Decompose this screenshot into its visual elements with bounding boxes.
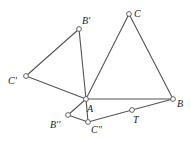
segment-Bpp-Cpp <box>68 115 88 122</box>
label-Bpp: B′′ <box>50 119 61 130</box>
point-Bp <box>77 27 82 32</box>
segment-Cpp-T <box>88 110 132 122</box>
points-group <box>24 12 176 125</box>
point-A <box>84 97 89 102</box>
segment-Cp-A <box>26 76 86 99</box>
label-B: B <box>177 98 183 109</box>
point-Cp <box>24 74 29 79</box>
segments-group <box>26 14 173 122</box>
labels-group: CB′C′ABTB′′C′′ <box>8 8 183 135</box>
label-T: T <box>133 114 140 125</box>
segment-A-Bp <box>79 29 86 99</box>
label-A: A <box>86 103 94 114</box>
segment-T-B <box>132 99 173 110</box>
point-C <box>127 12 132 17</box>
geometry-diagram: CB′C′ABTB′′C′′ <box>0 0 191 142</box>
point-Cpp <box>86 120 91 125</box>
point-Bpp <box>66 113 71 118</box>
point-B <box>171 97 176 102</box>
label-C: C <box>134 8 141 19</box>
label-Bp: B′ <box>82 15 91 26</box>
segment-A-C <box>86 14 129 99</box>
point-T <box>130 108 135 113</box>
label-Cp: C′ <box>8 75 18 86</box>
segment-C-B <box>129 14 173 99</box>
segment-A-Bpp <box>68 99 86 115</box>
segment-Bp-Cp <box>26 29 79 76</box>
label-Cpp: C′′ <box>91 124 103 135</box>
